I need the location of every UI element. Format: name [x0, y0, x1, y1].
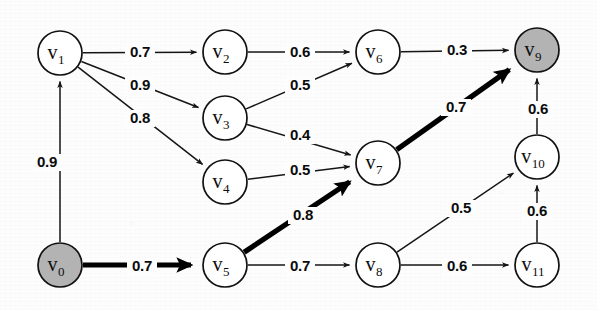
edge-weight-v3-v6: 0.5 — [290, 76, 310, 93]
node-v0[interactable]: v0 — [38, 243, 82, 287]
edge-weight-v10-v9: 0.6 — [528, 100, 548, 117]
edge-weight-v1-v2: 0.7 — [130, 43, 150, 60]
edge-weight-v0-v5: 0.7 — [132, 257, 152, 274]
node-v5[interactable]: v5 — [203, 243, 247, 287]
node-v3[interactable]: v3 — [203, 96, 247, 140]
node-v11[interactable]: v11 — [515, 243, 559, 287]
node-v2[interactable]: v2 — [203, 30, 247, 74]
edge-weight-v3-v7: 0.4 — [290, 126, 311, 143]
edge-weight-v1-v3: 0.9 — [130, 76, 150, 93]
edge-weight-v4-v7: 0.5 — [290, 161, 310, 178]
edge-weight-v1-v4: 0.8 — [130, 109, 150, 126]
node-v1[interactable]: v1 — [38, 31, 82, 75]
edge-weight-v8-v10: 0.5 — [451, 199, 471, 216]
edge-weight-v5-v7: 0.8 — [293, 206, 313, 223]
node-v10[interactable]: v10 — [515, 135, 559, 179]
edge-weight-v11-v10: 0.6 — [527, 202, 547, 219]
node-v9[interactable]: v9 — [515, 28, 559, 72]
edge-weight-v7-v9: 0.7 — [446, 98, 466, 115]
graph-figure: v0v1v2v3v4v5v6v7v8v9v10v11 0.90.70.90.80… — [0, 0, 597, 310]
node-v6[interactable]: v6 — [356, 30, 400, 74]
graph-canvas: v0v1v2v3v4v5v6v7v8v9v10v11 0.90.70.90.80… — [0, 0, 597, 310]
node-v4[interactable]: v4 — [203, 160, 247, 204]
edge-weight-v6-v9: 0.3 — [447, 41, 467, 58]
node-v7[interactable]: v7 — [356, 141, 400, 185]
edge-weight-v2-v6: 0.6 — [290, 43, 310, 60]
edge-weight-v5-v8: 0.7 — [290, 257, 310, 274]
node-v8[interactable]: v8 — [356, 243, 400, 287]
edge-weight-v8-v11: 0.6 — [447, 257, 467, 274]
edge-weights-layer: 0.90.70.90.80.60.50.40.50.80.30.70.70.70… — [32, 41, 553, 275]
edge-weight-v0-v1: 0.9 — [37, 153, 57, 170]
nodes-layer: v0v1v2v3v4v5v6v7v8v9v10v11 — [38, 28, 559, 287]
